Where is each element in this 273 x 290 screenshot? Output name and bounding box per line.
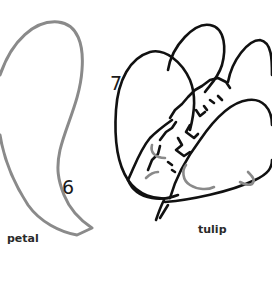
step-number-7: 7 (110, 74, 122, 93)
petal-drawing (0, 22, 92, 235)
caption-petal: petal (7, 233, 39, 244)
caption-tulip: tulip (198, 224, 227, 235)
tulip-drawing (116, 25, 273, 220)
step-number-6: 6 (62, 178, 74, 197)
drawing-illustration (0, 0, 272, 290)
drawing-tutorial-canvas: 6 petal 7 tulip (0, 0, 272, 290)
tulip-accent-strokes (146, 145, 254, 189)
